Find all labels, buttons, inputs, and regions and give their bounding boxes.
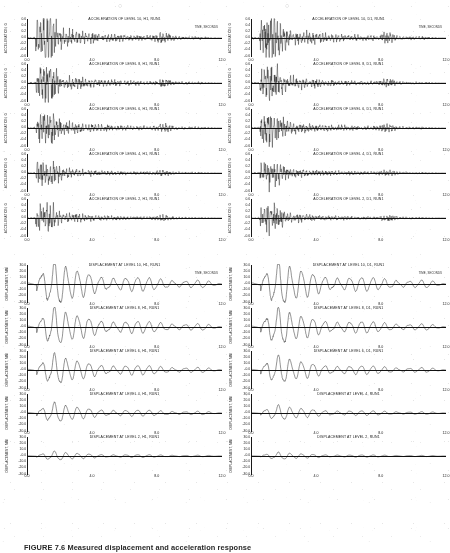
x-tick-label: 8.0 <box>154 238 159 242</box>
y-tick-label: -0.4 <box>20 183 26 186</box>
y-tick-label: 10.0 <box>20 276 26 279</box>
y-tick-label: -0.4 <box>20 228 26 231</box>
y-axis-label: ACCELERATION, G <box>2 106 11 150</box>
y-tick-label: -0.4 <box>244 138 250 141</box>
y-tick-label: 20.0 <box>244 313 250 316</box>
plot-panel: DISPLACEMENT, MM30.020.010.0-0.0-10.0-20… <box>224 348 448 390</box>
y-axis-ticks: 30.020.010.0-0.0-10.0-20.0-30.0 <box>235 436 250 476</box>
plot-area: DISPLACEMENT AT LEVEL 4, RUN1 <box>251 393 446 433</box>
y-tick-label: 10.0 <box>244 362 250 365</box>
plot-panel: ACCELERATION, G0.60.40.20.0-0.2-0.4-0.6A… <box>0 151 224 195</box>
panel-title: DISPLACEMENT AT LEVEL 4, RUN1 <box>251 392 446 396</box>
page-top-marks: ○ ○ <box>0 0 449 14</box>
plot-panel: ACCELERATION, G0.60.40.20.0-0.2-0.4-0.6A… <box>224 196 448 240</box>
panel-title: ACCELERATION OF LEVEL 4, H1, RUN1 <box>27 152 222 156</box>
y-tick-label: -0.2 <box>20 222 26 225</box>
plot-area: ACCELERATION OF LEVEL 10, H1, RUN1TIME, … <box>27 18 222 58</box>
y-axis-label: DISPLACEMENT, MM <box>226 262 235 306</box>
waveform-trace <box>251 153 446 193</box>
x-axis-ticks: 0.04.08.012.0 <box>251 238 446 245</box>
panel-title: ACCELERATION OF LEVEL 4, D1, RUN1 <box>251 152 446 156</box>
y-tick-label: 0.0 <box>21 81 26 84</box>
y-tick-label: 10.0 <box>244 405 250 408</box>
y-tick-label: -0.4 <box>244 48 250 51</box>
y-tick-label: 0.6 <box>245 63 250 66</box>
panel-title: ACCELERATION OF LEVEL 8, D1, RUN1 <box>251 62 446 66</box>
waveform-trace <box>251 393 446 433</box>
y-axis-label: ACCELERATION, G <box>226 151 235 195</box>
y-tick-label: -0.2 <box>20 177 26 180</box>
x-tick-label: 12.0 <box>443 474 450 478</box>
y-tick-label: -0.0 <box>244 411 250 414</box>
panel-title: DISPLACEMENT AT LEVEL 10, H1, RUN1 <box>27 263 222 267</box>
plot-panel: ACCELERATION, G0.60.40.20.0-0.2-0.4-0.6A… <box>0 196 224 240</box>
x-tick-label: 4.0 <box>89 474 94 478</box>
y-tick-label: 0.2 <box>21 210 26 213</box>
y-axis-label: ACCELERATION, G <box>226 196 235 240</box>
y-tick-label: 0.2 <box>21 165 26 168</box>
y-tick-label: 0.2 <box>21 75 26 78</box>
plot-area: DISPLACEMENT AT LEVEL 10, H1, RUN1TIME, … <box>27 264 222 304</box>
y-tick-label: -0.2 <box>20 87 26 90</box>
plot-area: ACCELERATION OF LEVEL 10, D1, RUN1TIME, … <box>251 18 446 58</box>
y-tick-label: 0.6 <box>21 198 26 201</box>
y-tick-label: -20.0 <box>18 423 26 426</box>
time-axis-annotation: TIME, SECONDS <box>419 25 442 29</box>
y-tick-label: -10.0 <box>242 288 250 291</box>
y-tick-label: 0.4 <box>245 69 250 72</box>
y-tick-label: 0.6 <box>245 198 250 201</box>
y-tick-label: -0.2 <box>20 132 26 135</box>
y-tick-label: 0.6 <box>21 153 26 156</box>
y-tick-label: -10.0 <box>242 417 250 420</box>
y-tick-label: 30.0 <box>244 307 250 310</box>
plot-area: ACCELERATION OF LEVEL 6, D1, RUN1 <box>251 108 446 148</box>
plot-panel: DISPLACEMENT, MM30.020.010.0-0.0-10.0-20… <box>0 305 224 347</box>
panel-title: DISPLACEMENT AT LEVEL 2, H1, RUN1 <box>27 435 222 439</box>
y-tick-label: 20.0 <box>20 356 26 359</box>
plot-area: DISPLACEMENT AT LEVEL 6, D1, RUN1 <box>251 350 446 390</box>
waveform-trace <box>27 307 222 347</box>
y-tick-label: 0.2 <box>245 210 250 213</box>
plot-panel: DISPLACEMENT, MM30.020.010.0-0.0-10.0-20… <box>0 434 224 476</box>
x-tick-label: 4.0 <box>313 474 318 478</box>
y-tick-label: 0.6 <box>21 63 26 66</box>
y-axis-ticks: 0.60.40.20.0-0.2-0.4-0.6 <box>11 198 26 238</box>
y-tick-label: 30.0 <box>20 264 26 267</box>
y-tick-label: 20.0 <box>20 399 26 402</box>
panel-title: DISPLACEMENT AT LEVEL 6, D1, RUN1 <box>251 349 446 353</box>
x-tick-label: 12.0 <box>443 238 450 242</box>
y-axis-label: DISPLACEMENT, MM <box>2 305 11 349</box>
panel-title: DISPLACEMENT AT LEVEL 10, D1, RUN1 <box>251 263 446 267</box>
y-tick-label: -0.0 <box>20 282 26 285</box>
y-tick-label: -10.0 <box>18 460 26 463</box>
plot-area: ACCELERATION OF LEVEL 8, D1, RUN1 <box>251 63 446 103</box>
y-tick-label: -10.0 <box>242 331 250 334</box>
panel-title: ACCELERATION OF LEVEL 10, D1, RUN1 <box>251 17 446 21</box>
y-axis-label: DISPLACEMENT, MM <box>2 434 11 478</box>
y-axis-label: ACCELERATION, G <box>2 61 11 105</box>
waveform-trace <box>251 198 446 238</box>
y-tick-label: 10.0 <box>244 319 250 322</box>
y-axis-ticks: 0.60.40.20.0-0.2-0.4-0.6 <box>11 63 26 103</box>
y-axis-ticks: 0.60.40.20.0-0.2-0.4-0.6 <box>235 18 250 58</box>
y-tick-label: -0.4 <box>20 138 26 141</box>
y-axis-ticks: 30.020.010.0-0.0-10.0-20.0-30.0 <box>11 264 26 304</box>
y-tick-label: 0.4 <box>21 24 26 27</box>
y-tick-label: -20.0 <box>242 337 250 340</box>
y-tick-label: 0.2 <box>245 30 250 33</box>
y-axis-ticks: 0.60.40.20.0-0.2-0.4-0.6 <box>11 153 26 193</box>
y-axis-label: ACCELERATION, G <box>226 61 235 105</box>
figure-caption: FIGURE 7.6 Measured displacement and acc… <box>24 543 424 552</box>
y-axis-label: DISPLACEMENT, MM <box>2 348 11 392</box>
y-axis-label: ACCELERATION, G <box>2 196 11 240</box>
y-axis-ticks: 30.020.010.0-0.0-10.0-20.0-30.0 <box>235 350 250 390</box>
plot-area: DISPLACEMENT AT LEVEL 2, RUN1 <box>251 436 446 476</box>
y-tick-label: 10.0 <box>20 319 26 322</box>
plot-area: DISPLACEMENT AT LEVEL 2, H1, RUN1 <box>27 436 222 476</box>
panel-title: DISPLACEMENT AT LEVEL 6, H1, RUN1 <box>27 349 222 353</box>
y-tick-label: -0.0 <box>244 325 250 328</box>
plot-panel: ACCELERATION, G0.60.40.20.0-0.2-0.4-0.6A… <box>0 106 224 150</box>
top-mark-right: ○ <box>285 2 289 9</box>
y-tick-label: -0.0 <box>20 454 26 457</box>
y-tick-label: -0.4 <box>244 228 250 231</box>
